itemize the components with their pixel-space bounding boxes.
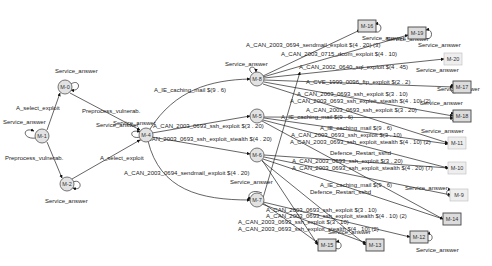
- node-label: M-18: [456, 113, 469, 119]
- edge-label: Service_answer: [328, 229, 371, 235]
- node-label: M-15: [321, 242, 334, 248]
- graph-node: M-10: [448, 162, 466, 174]
- node-label: M-1: [37, 133, 46, 139]
- graph-node: M-9: [450, 189, 468, 201]
- graph-node: M-14: [443, 213, 461, 225]
- edge-label: Service_answer: [45, 198, 88, 204]
- edge-label: A_CAN_2003_0693_ssh_exploit_stealth $(4 …: [140, 136, 272, 142]
- node-label: M-13: [369, 242, 382, 248]
- node-label: M-17: [456, 84, 469, 90]
- edge-label: Defence_Restart_sshd: [330, 150, 391, 156]
- edge-label: A_IE_caching_mail $(9 . 6): [154, 87, 226, 93]
- edge-label: A_CAN_2003_0693_ssh_exploit_stealth $(4 …: [292, 165, 433, 171]
- edge-label: Preprocess_vulnerab.: [82, 108, 141, 114]
- edge-label: A_CAN_2003_0694_sendmail_exploit $(4 . 2…: [124, 170, 249, 176]
- edge-label: A_CAN_2003_0693_ssh_exploit $(3 . 20): [153, 123, 264, 129]
- graph-node: M-2: [60, 177, 74, 191]
- edge-label: Service_answer: [113, 120, 156, 126]
- graph-node: M-20: [444, 53, 462, 65]
- node-label: M-4: [141, 132, 150, 138]
- edge-label: A_CAN_2003_0693_ssh_exploit_stealth $(4 …: [290, 139, 431, 145]
- edge-label: Service_answer: [420, 100, 463, 106]
- node-label: M-5: [252, 113, 261, 119]
- graph-node: M-5: [250, 109, 264, 123]
- node-label: M-11: [451, 140, 463, 146]
- edge-label: A_CAN_2003_0693_ssh_exploit $(3 . 10): [291, 132, 402, 138]
- edge-label: Service_answer: [225, 61, 268, 67]
- node-label: M-8: [252, 76, 261, 82]
- edge-label: Service_answer: [362, 35, 405, 41]
- edge-label: A_IE_caching_mail $(9 . 6): [320, 125, 392, 131]
- edge-label: A_CAN_2003_0693_ssh_exploit $(3 . 10): [297, 91, 408, 97]
- node-label: M-9: [454, 192, 463, 198]
- graph-node: M-19: [408, 27, 426, 39]
- edge-label: A_IE_caching_mail $(9 . 6): [281, 114, 353, 120]
- node-label: M-0: [60, 84, 69, 90]
- graph-node: M-12: [410, 231, 428, 243]
- edge-label: Service_answer: [55, 68, 98, 74]
- node-label: M-2: [62, 181, 71, 187]
- graph-node: M-15: [318, 239, 336, 251]
- graph-node: M-4: [139, 128, 153, 142]
- edge-labels: Service_answerA_select_exploitService_an…: [3, 35, 480, 253]
- graph-node: M-11: [448, 137, 466, 149]
- edge-label: A_CAN_2003_0693_ssh_exploit $(3 . 20): [306, 107, 417, 113]
- node-label: M-7: [252, 197, 261, 203]
- graph-node: M-0: [58, 80, 72, 94]
- edge-label: A_CAN_2003_0694_sendmail_exploit $(4 . 2…: [246, 42, 380, 48]
- graph-node: M-8: [250, 72, 264, 86]
- graph-node: M-18: [453, 110, 471, 122]
- node-label: M-16: [361, 23, 374, 29]
- graph-node: M-6: [250, 148, 264, 162]
- graph-node: M-13: [366, 239, 384, 251]
- node-label: M-19: [411, 30, 424, 36]
- node-label: M-20: [447, 56, 460, 62]
- edge-label: A_IE_caching_mail $(9 . 6): [320, 182, 392, 188]
- node-label: M-12: [413, 234, 426, 240]
- edge-label: Service_answer: [416, 247, 459, 253]
- edge-label: A_CAN_2003_0693_ssh_exploit_stealth $(4 …: [290, 98, 431, 104]
- node-label: M-10: [451, 165, 464, 171]
- graph-node: M-1: [35, 129, 49, 143]
- graph-node: M-16: [358, 20, 376, 32]
- edge-label: A_select_exploit: [16, 105, 60, 111]
- edge-label: A_CAN_2002_0640_sql_exploit $(4 . 45): [299, 64, 408, 70]
- edge-label: Service_answer: [416, 67, 459, 73]
- edge-label: Service_answer: [418, 42, 461, 48]
- edge-label: A_select_exploit: [100, 155, 144, 161]
- edge-label: A_CAN_2003_0693_ssh_exploit $(3 . 20): [292, 158, 403, 164]
- attack-graph-canvas: Service_answerA_select_exploitService_an…: [0, 0, 492, 266]
- edge-label: Preprocess_vulnerab.: [5, 155, 64, 161]
- graph-node: M-7: [250, 193, 264, 207]
- edge-label: Service_answer: [421, 128, 464, 134]
- edge-label: Service_answer: [405, 185, 448, 191]
- edge-label: Service_answer: [3, 119, 46, 125]
- graph-node: M-17: [453, 81, 471, 93]
- edge-label: A_CAN_2003_0715_dcom_exploit $(4 . 10): [281, 51, 397, 57]
- edge-label: A_CAN_2003_0693_ssh_exploit $(3 . 10): [238, 219, 349, 225]
- edge-label: Service_answer: [230, 179, 273, 185]
- node-label: M-6: [252, 152, 261, 158]
- edge-label: A_CVE_1999_0096_ftp_exploit $(2 . 2): [306, 79, 410, 85]
- node-label: M-14: [446, 216, 459, 222]
- edge-label: Defence_Restart_sshd: [310, 189, 371, 195]
